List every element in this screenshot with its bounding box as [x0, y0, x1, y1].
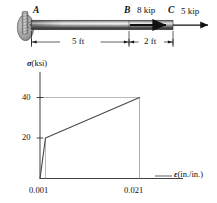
stress-strain-curve	[40, 98, 140, 179]
dimension-label-BC: 2 ft	[144, 37, 156, 46]
point-label-A: A	[33, 6, 39, 16]
load-label-8kip: 8 kip	[137, 6, 155, 15]
figure-root: A B 8 kip C 5 kip 5 ft 2 ft σ(ksi) ε(in.…	[0, 0, 217, 203]
x-tick-label-0021: 0.021	[124, 186, 143, 195]
load-label-5kip: 5 kip	[181, 7, 199, 16]
x-axis-units: (in./in.)	[178, 169, 204, 179]
dimension-label-AB: 5 ft	[72, 37, 84, 46]
x-tick-label-0001: 0.001	[29, 186, 48, 195]
y-tick-label-20: 20	[22, 133, 31, 142]
chart-y-axis-title: σ(ksi)	[27, 59, 47, 68]
y-axis-units: (ksi)	[32, 58, 48, 68]
point-label-C: C	[168, 6, 174, 16]
stress-strain-chart	[37, 72, 183, 179]
y-tick-label-40: 40	[22, 93, 31, 102]
chart-x-axis-title: ε(in./in.)	[174, 170, 203, 179]
point-label-B: B	[124, 6, 130, 16]
